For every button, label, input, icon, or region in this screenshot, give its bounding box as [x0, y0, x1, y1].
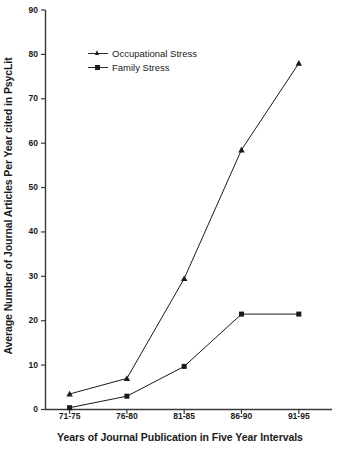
chart-legend: Occupational Stress Family Stress: [88, 46, 197, 74]
y-axis-tick-label: 30: [14, 272, 38, 281]
data-point-marker: [239, 312, 244, 317]
x-axis-title: Years of Journal Publication in Five Yea…: [20, 431, 340, 443]
y-axis-tick-label: 70: [14, 94, 38, 103]
y-axis-tick-label: 50: [14, 183, 38, 192]
series-layer: [66, 60, 302, 410]
y-axis-tick-label: 20: [14, 316, 38, 325]
legend-item-occupational-stress: Occupational Stress: [88, 46, 197, 60]
series-line: [70, 63, 299, 394]
data-point-marker: [182, 364, 187, 369]
legend-marker-triangle-icon: [88, 49, 108, 58]
x-axis-tick-label: 86-90: [218, 412, 264, 421]
x-axis-tick-label: 71-75: [47, 412, 93, 421]
line-chart: Average Number of Journal Articles Per Y…: [0, 0, 342, 453]
data-point-marker: [181, 275, 187, 281]
legend-label: Family Stress: [112, 62, 170, 73]
data-point-marker: [124, 375, 130, 381]
y-axis-tick-label: 40: [14, 227, 38, 236]
x-axis-tick-label: 91-95: [276, 412, 322, 421]
y-axis-tick-label: 80: [14, 50, 38, 59]
series-line: [70, 314, 299, 408]
legend-marker-square-icon: [88, 63, 108, 72]
data-point-marker: [296, 60, 302, 66]
y-axis-tick-label: 0: [14, 405, 38, 414]
data-point-marker: [238, 147, 244, 153]
data-point-marker: [67, 405, 72, 410]
x-axis-tick-label: 76-80: [104, 412, 150, 421]
y-axis-tick-label: 10: [14, 361, 38, 370]
legend-item-family-stress: Family Stress: [88, 60, 197, 74]
x-axis-tick-label: 81-85: [161, 412, 207, 421]
legend-label: Occupational Stress: [112, 48, 197, 59]
y-axis-tick-label: 60: [14, 139, 38, 148]
data-point-marker: [296, 312, 301, 317]
y-axis-tick-label: 90: [14, 6, 38, 15]
data-point-marker: [124, 394, 129, 399]
